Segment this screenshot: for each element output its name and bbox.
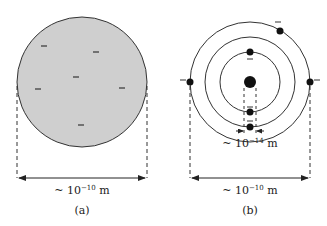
electron bbox=[247, 124, 254, 131]
width-label-b: ~ 10−10 m bbox=[222, 184, 278, 197]
electron bbox=[247, 49, 254, 56]
electron bbox=[187, 79, 194, 86]
caption-a: (a) bbox=[74, 204, 89, 217]
nucleus bbox=[244, 76, 256, 88]
electron bbox=[277, 28, 284, 35]
width-label-a: ~ 10−10 m bbox=[54, 184, 110, 197]
rutherford-model: ~ 10−14 m ~ 10−10 m (b) bbox=[180, 22, 320, 217]
caption-b: (b) bbox=[242, 204, 258, 217]
positive-sphere bbox=[17, 17, 147, 147]
nucleus-size-label: ~ 10−14 m bbox=[222, 137, 278, 150]
electron bbox=[247, 109, 254, 116]
atom-models-figure: ~ 10−10 m (a) ~ 10−14 bbox=[0, 0, 327, 226]
thomson-model: ~ 10−10 m (a) bbox=[17, 17, 147, 217]
electron bbox=[307, 79, 314, 86]
